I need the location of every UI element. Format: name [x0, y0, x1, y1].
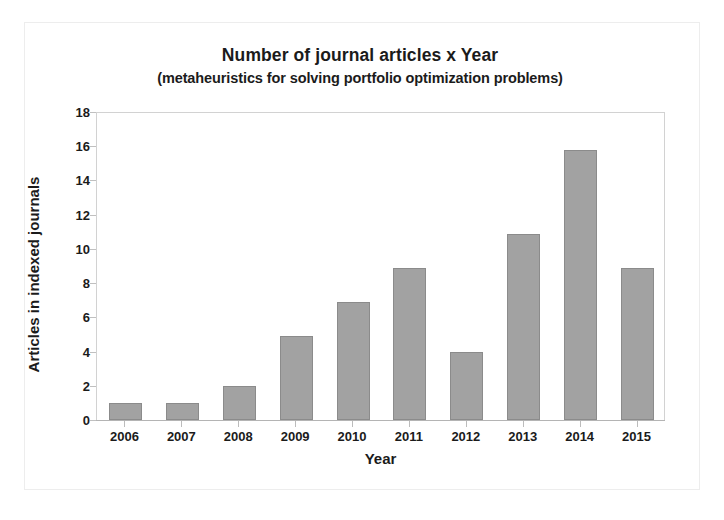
y-axis-tick-label: 6 — [56, 310, 90, 325]
x-axis-tick-mark — [637, 421, 638, 427]
x-axis-tick-mark — [238, 421, 239, 427]
x-axis-tick-mark — [181, 421, 182, 427]
bar — [621, 268, 654, 420]
bar — [280, 336, 313, 420]
bar — [337, 302, 370, 420]
bar — [109, 403, 142, 420]
bar — [450, 352, 483, 420]
x-axis-tick-label: 2013 — [493, 429, 553, 444]
y-axis-tick-label: 0 — [56, 413, 90, 428]
y-axis-label: Articles in indexed journals — [25, 145, 42, 405]
bar — [393, 268, 426, 420]
x-axis-tick-label: 2008 — [208, 429, 268, 444]
y-axis-tick-label: 18 — [56, 105, 90, 120]
y-axis-tick-label: 14 — [56, 173, 90, 188]
y-axis-tick-label: 12 — [56, 207, 90, 222]
x-axis-tick-mark — [466, 421, 467, 427]
x-axis-tick-mark — [523, 421, 524, 427]
bar — [223, 386, 256, 420]
y-axis-tick-label: 2 — [56, 378, 90, 393]
x-axis-label: Year — [96, 450, 665, 467]
y-axis-tick-label: 4 — [56, 344, 90, 359]
chart-subtitle: (metaheuristics for solving portfolio op… — [45, 70, 675, 86]
x-axis-tick-label: 2010 — [322, 429, 382, 444]
x-axis-tick-label: 2015 — [607, 429, 667, 444]
chart-figure: Number of journal articles x Year (metah… — [0, 0, 724, 520]
x-axis-tick-label: 2007 — [151, 429, 211, 444]
x-axis-tick-label: 2009 — [265, 429, 325, 444]
x-axis-tick-label: 2014 — [550, 429, 610, 444]
x-axis-tick-mark — [580, 421, 581, 427]
bar — [507, 234, 540, 421]
x-axis-tick-label: 2011 — [379, 429, 439, 444]
x-axis-tick-label: 2006 — [94, 429, 154, 444]
y-axis-tick-label: 16 — [56, 139, 90, 154]
chart-title: Number of journal articles x Year — [60, 45, 660, 66]
y-axis-tick-label: 8 — [56, 276, 90, 291]
x-axis-tick-mark — [124, 421, 125, 427]
x-axis-tick-label: 2012 — [436, 429, 496, 444]
x-axis-tick-mark — [295, 421, 296, 427]
y-axis-tick-labels: 024681012141618 — [50, 0, 90, 520]
y-axis-tick-label: 10 — [56, 241, 90, 256]
bar — [166, 403, 199, 420]
x-axis-tick-mark — [409, 421, 410, 427]
x-axis-tick-mark — [352, 421, 353, 427]
plot-area — [96, 112, 665, 421]
bar — [564, 150, 597, 420]
bars-container — [97, 113, 664, 420]
